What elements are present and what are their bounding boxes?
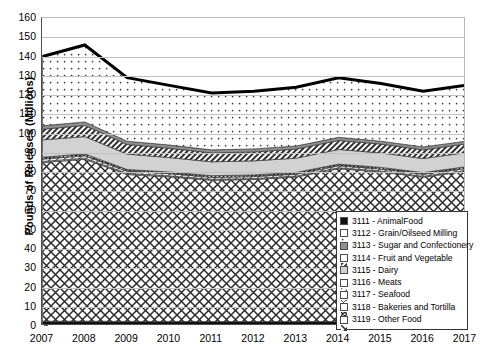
chart-container: Pounds of Releases (Millions) 0102030405… [0, 0, 480, 363]
legend-label: 3117 - Seafood [352, 290, 410, 299]
legend-swatch-icon [340, 229, 348, 237]
x-tick-label: 2013 [273, 332, 317, 344]
legend-item[interactable]: 3111 - AnimalFood [340, 215, 463, 227]
x-tick-label: 2009 [104, 332, 148, 344]
legend-label: 3112 - Grain/Oilseed Milling [352, 229, 457, 238]
legend-label: 3114 - Fruit and Vegetable [352, 254, 453, 263]
gridline [42, 153, 464, 154]
gridline [42, 37, 464, 38]
legend-item[interactable]: 3115 - Dairy [340, 264, 463, 276]
legend-swatch-icon [340, 303, 348, 311]
legend-swatch-icon [340, 242, 348, 250]
x-tick-label: 2015 [358, 332, 402, 344]
legend-item[interactable]: 3117 - Seafood [340, 289, 463, 301]
gridline [42, 191, 464, 192]
x-tick-label: 2007 [20, 332, 64, 344]
legend-item[interactable]: 3112 - Grain/Oilseed Milling [340, 227, 463, 239]
x-tick-label: 2017 [443, 332, 480, 344]
x-tick-label: 2012 [231, 332, 275, 344]
legend-item[interactable]: 3113 - Sugar and Confectionery [340, 240, 463, 252]
legend-label: 3113 - Sugar and Confectionery [352, 241, 473, 250]
x-tick-label: 2016 [400, 332, 444, 344]
legend-label: 3115 - Dairy [352, 266, 398, 275]
legend-swatch-icon [340, 217, 348, 225]
legend-label: 3116 - Meats [352, 278, 402, 287]
legend-label: 3118 - Bakeries and Tortilla [352, 303, 455, 312]
x-tick-label: 2010 [146, 332, 190, 344]
gridline [42, 134, 464, 135]
legend-item[interactable]: 3118 - Bakeries and Tortilla [340, 301, 463, 313]
gridline [42, 114, 464, 115]
gridline [42, 76, 464, 77]
legend-swatch-icon [340, 291, 348, 299]
legend-item[interactable]: 3114 - Fruit and Vegetable [340, 252, 463, 264]
legend-swatch-icon [340, 316, 348, 324]
x-tick-label: 2008 [62, 332, 106, 344]
x-tick-label: 2011 [189, 332, 233, 344]
legend-swatch-icon [340, 254, 348, 262]
legend-item[interactable]: 3119 - Other Food [340, 313, 463, 325]
legend-swatch-icon [340, 266, 348, 274]
gridline [42, 95, 464, 96]
gridline [42, 57, 464, 58]
x-tick-label: 2014 [316, 332, 360, 344]
legend-swatch-icon [340, 279, 348, 287]
chart-legend: 3111 - AnimalFood3112 - Grain/Oilseed Mi… [336, 211, 468, 330]
legend-label: 3119 - Other Food [352, 315, 422, 324]
gridline [42, 172, 464, 173]
legend-item[interactable]: 3116 - Meats [340, 276, 463, 288]
legend-label: 3111 - AnimalFood [352, 217, 423, 226]
